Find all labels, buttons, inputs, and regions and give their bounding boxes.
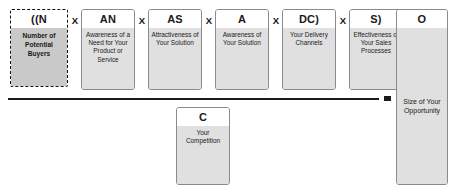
factor-box-delivery-channels[interactable]: DC) Your Delivery Channels (282, 9, 336, 90)
multiply-operator-1: X (69, 16, 81, 26)
factor-description-an: Awareness of a Need for Your Product or … (82, 28, 134, 89)
result-box-size-of-opportunity[interactable]: O Size of Your Opportunity (396, 9, 448, 185)
multiply-operator-4: X (270, 16, 282, 26)
factor-code-as: AS (149, 10, 201, 28)
factor-box-number-of-potential-buyers[interactable]: ((N Number of Potential Buyers (10, 9, 68, 87)
factor-code-dc: DC) (283, 10, 335, 28)
factor-description-c: Your Competition (177, 126, 229, 184)
result-code-o: O (397, 10, 447, 28)
result-description-o: Size of Your Opportunity (397, 28, 447, 184)
factor-code-a: A (216, 10, 268, 28)
factor-box-your-competition[interactable]: C Your Competition (176, 107, 230, 185)
factor-description-a: Awareness of Your Solution (216, 28, 268, 89)
opportunity-formula-diagram: ((N Number of Potential Buyers X AN Awar… (0, 0, 458, 193)
multiply-operator-3: X (203, 16, 215, 26)
factor-description-dc: Your Delivery Channels (283, 28, 335, 89)
factor-description-as: Attractiveness of Your Solution (149, 28, 201, 89)
factor-box-sales-processes[interactable]: S) Effectiveness of Your Sales Processes (349, 9, 403, 90)
equals-operator (384, 96, 391, 101)
fraction-bar (8, 98, 379, 100)
factor-box-attractiveness-of-solution[interactable]: AS Attractiveness of Your Solution (148, 9, 202, 90)
factor-box-awareness-of-solution[interactable]: A Awareness of Your Solution (215, 9, 269, 90)
factor-code-s: S) (350, 10, 402, 28)
multiply-operator-2: X (136, 16, 148, 26)
factor-code-n: ((N (11, 10, 67, 28)
factor-description-s: Effectiveness of Your Sales Processes (350, 28, 402, 89)
factor-code-c: C (177, 108, 229, 126)
factor-description-n: Number of Potential Buyers (11, 28, 67, 86)
factor-box-awareness-of-need[interactable]: AN Awareness of a Need for Your Product … (81, 9, 135, 90)
factor-code-an: AN (82, 10, 134, 28)
multiply-operator-5: X (337, 16, 349, 26)
